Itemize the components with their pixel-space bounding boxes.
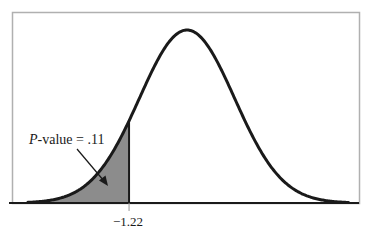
p-value-annotation-italic: P bbox=[28, 132, 38, 147]
p-value-annotation: P-value = .11 bbox=[28, 132, 104, 147]
p-value-annotation-text: -value = .11 bbox=[38, 132, 105, 147]
normal-curve-figure: −1.22 P-value = .11 bbox=[0, 0, 368, 241]
critical-value-label: −1.22 bbox=[113, 214, 143, 229]
normal-density-curve bbox=[28, 30, 349, 202]
annotation-arrow-shaft bbox=[77, 149, 104, 181]
chart-frame bbox=[13, 13, 360, 204]
chart-canvas: −1.22 P-value = .11 bbox=[0, 0, 368, 241]
